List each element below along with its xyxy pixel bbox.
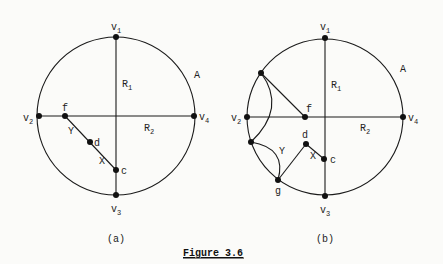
vertex-v4-a [191, 113, 197, 119]
vertex-v3-b [322, 193, 328, 199]
vertex-v2-b [244, 114, 250, 120]
vertex-v1-b [322, 35, 328, 41]
figure-3-6: v1 v2 v3 v4 f d c R1 R2 A Y X (a) v [0, 0, 443, 264]
label-Y-a: Y [68, 126, 74, 137]
panel-a: v1 v2 v3 v4 f d c R1 R2 A Y X (a) [23, 22, 209, 245]
label-v1-b: v1 [320, 22, 330, 35]
vertex-g-b [275, 177, 281, 183]
label-d-a: d [94, 138, 100, 149]
label-v4-a: v4 [199, 112, 209, 125]
caption-a: (a) [107, 234, 125, 245]
label-R1-b: R1 [331, 80, 341, 93]
label-g-b: g [275, 186, 281, 197]
label-v1-a: v1 [111, 22, 121, 35]
label-v4-b: v4 [408, 113, 418, 126]
vertex-v4-b [400, 114, 406, 120]
label-R1-a: R1 [122, 79, 132, 92]
label-X-a: X [99, 156, 105, 167]
label-v2-a: v2 [23, 113, 33, 126]
label-A-a: A [194, 70, 200, 81]
vertex-d-b [303, 141, 309, 147]
label-X-b: X [310, 151, 316, 162]
panel-b: v1 v2 v3 v4 f d c g R1 R2 A Y X (b) [231, 22, 418, 245]
label-c-b: c [330, 155, 336, 166]
label-f-a: f [62, 103, 68, 114]
vertex-d-a [87, 139, 93, 145]
label-v3-b: v3 [320, 205, 330, 218]
label-v2-b: v2 [231, 113, 241, 126]
label-d-b: d [302, 130, 308, 141]
label-Y-b: Y [279, 146, 285, 157]
caption-b: (b) [316, 234, 334, 245]
vertex-v2-a [36, 113, 42, 119]
label-A-b: A [400, 64, 406, 75]
vertex-c-b [321, 156, 327, 162]
vertex-c-a [113, 167, 119, 173]
edge-p-f-b [261, 73, 305, 117]
vertex-p-b [258, 70, 264, 76]
label-v3-a: v3 [111, 204, 121, 217]
label-f-b: f [306, 104, 312, 115]
label-c-a: c [121, 166, 127, 177]
figure-title: Figure 3.6 [183, 248, 243, 259]
vertex-q-b [248, 139, 254, 145]
label-R2-b: R2 [360, 123, 370, 136]
label-R2-a: R2 [144, 123, 154, 136]
arc-q-g-Y-b [251, 142, 280, 180]
vertex-v3-a [113, 192, 119, 198]
